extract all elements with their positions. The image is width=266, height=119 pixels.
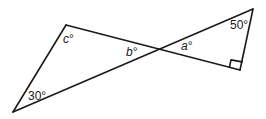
label-b: b° [126,45,138,59]
angle-diagram: c° b° a° 30° 50° [0,0,266,119]
label-angle-30: 30° [28,89,46,103]
degree-c: ° [69,32,74,46]
label-a: a° [181,39,193,53]
segment-top-left-to-bottom-right [66,25,240,70]
label-angle-50: 50° [230,18,248,32]
segment-bottom-left-to-top-right [13,9,253,112]
label-c: c° [63,32,74,46]
